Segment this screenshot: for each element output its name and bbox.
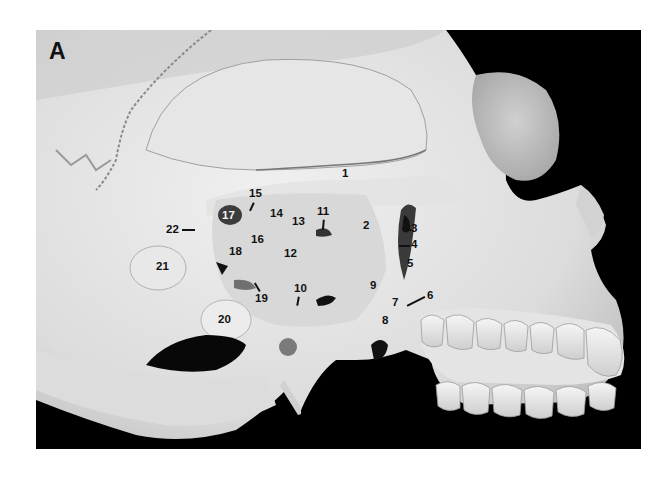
leader-line-22 <box>182 229 195 231</box>
skull-illustration <box>36 30 641 449</box>
landmark-label-5: 5 <box>407 258 413 270</box>
landmark-label-18: 18 <box>229 246 242 258</box>
landmark-label-17: 17 <box>222 210 235 222</box>
landmark-label-3: 3 <box>411 223 417 235</box>
landmark-label-11: 11 <box>317 206 329 218</box>
landmark-label-21: 21 <box>156 261 169 273</box>
skull-photograph: A 1 2 3 4 5 6 7 8 9 10 11 12 13 14 15 16… <box>36 30 641 449</box>
panel-letter: A <box>49 40 66 63</box>
landmark-label-12: 12 <box>284 248 297 260</box>
landmark-label-14: 14 <box>270 208 283 220</box>
landmark-label-22: 22 <box>166 224 179 236</box>
leader-line-3 <box>403 229 411 231</box>
landmark-label-10: 10 <box>294 283 307 295</box>
landmark-label-8: 8 <box>382 315 388 327</box>
landmark-label-1: 1 <box>342 168 348 180</box>
landmark-label-6: 6 <box>427 290 433 302</box>
landmark-label-16: 16 <box>251 234 264 246</box>
landmark-label-7: 7 <box>392 297 398 309</box>
landmark-label-13: 13 <box>292 216 305 228</box>
landmark-label-2: 2 <box>363 220 369 232</box>
landmark-label-19: 19 <box>255 293 268 305</box>
landmark-label-20: 20 <box>218 314 231 326</box>
landmark-label-4: 4 <box>411 239 417 251</box>
landmark-label-9: 9 <box>370 280 376 292</box>
leader-line-4 <box>399 245 410 247</box>
landmark-label-15: 15 <box>249 188 262 200</box>
